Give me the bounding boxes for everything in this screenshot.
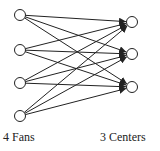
node-center-2 [127,49,138,60]
edge-fan-4-to-center-2 [25,57,127,113]
node-fan-3 [15,78,26,89]
node-fan-1 [15,10,26,21]
fans-centers-diagram: 4 Fans 3 Centers [0,0,160,151]
node-fan-4 [15,111,26,122]
edge-fan-4-to-center-3 [25,89,126,115]
fans-label: 4 Fans [3,130,35,144]
edge-fan-3-to-center-1 [25,25,127,80]
edge-fan-4-to-center-1 [24,26,127,113]
node-center-1 [127,17,138,28]
edge-fan-1-to-center-1 [25,15,126,21]
edges [24,15,127,114]
edge-fan-1-to-center-2 [25,17,126,52]
centers-label: 3 Centers [100,130,146,144]
edge-fan-2-to-center-1 [25,23,126,48]
node-fan-2 [15,45,26,56]
bipartite-graph [0,0,160,151]
node-center-3 [127,82,138,93]
